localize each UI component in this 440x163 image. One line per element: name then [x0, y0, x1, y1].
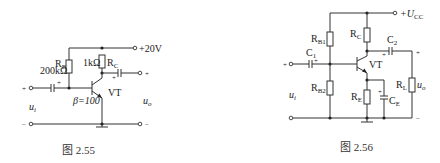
output-plus-terminal	[138, 71, 142, 75]
figure-caption: 图 2.56	[340, 141, 374, 153]
resistor-rc	[364, 28, 370, 42]
rl-label: RL	[396, 79, 407, 92]
c2-label: C2	[387, 34, 398, 47]
input-plus-terminal	[289, 62, 293, 66]
wire	[357, 56, 367, 61]
circuit-diagrams: +20V RB 200kΩ 1kΩ RC + + + +	[0, 0, 440, 163]
rc-label: RC	[107, 57, 119, 70]
output-plus-label: +	[416, 49, 420, 57]
re-label: RE	[351, 91, 362, 104]
transistor-label: VT	[108, 87, 121, 98]
output-minus-label: −	[145, 121, 149, 129]
junction-dot	[67, 86, 70, 89]
input-plus-terminal	[29, 86, 33, 90]
rc-value: 1kΩ	[83, 57, 100, 68]
supply-terminal	[133, 46, 137, 50]
ui-label: ui	[29, 101, 36, 114]
transistor-label: VT	[369, 59, 382, 70]
ce-label: CE	[389, 95, 400, 108]
figure-caption: 图 2.55	[62, 144, 96, 156]
cap-polarity: +	[378, 88, 382, 96]
output-plus-label: +	[145, 70, 149, 78]
rb2-label: RB2	[311, 82, 326, 95]
input-plus-label: +	[22, 85, 26, 93]
uo-label: uo	[417, 79, 426, 92]
beta-label: β=100	[72, 95, 100, 106]
uo-label: uo	[143, 95, 152, 108]
output-minus-terminal	[138, 122, 142, 126]
ui-label: ui	[289, 89, 296, 102]
rc-label: RC	[350, 28, 362, 41]
supply-terminal	[393, 11, 397, 15]
input-minus-terminal	[289, 116, 293, 120]
cap-polarity: +	[382, 51, 386, 59]
resistor-re	[364, 90, 370, 104]
figure-2-55: +20V RB 200kΩ 1kΩ RC + + + +	[22, 43, 163, 156]
output-minus-label: −	[416, 115, 420, 123]
cap-polarity: +	[112, 74, 116, 82]
input-minus-label: −	[22, 121, 26, 129]
junction-dot	[328, 116, 331, 119]
resistor-rl	[409, 78, 415, 92]
junction-dot	[382, 116, 385, 119]
resistor-rb1	[327, 32, 333, 46]
rb-value: 200kΩ	[40, 65, 67, 76]
emitter-arrow-icon	[362, 69, 367, 74]
supply-label: +UCC	[400, 8, 424, 21]
junction-dot	[100, 46, 103, 49]
supply-label: +20V	[139, 43, 163, 54]
resistor-rb2	[327, 81, 333, 95]
wire	[92, 78, 102, 85]
input-plus-label: +	[283, 61, 287, 69]
c1-label: C1	[306, 47, 317, 60]
rb1-label: RB1	[311, 33, 326, 46]
cap-polarity: +	[57, 79, 61, 87]
input-minus-terminal	[29, 122, 33, 126]
figure-2-56: +UCC RB1 RB2 + + C1 RC VT	[283, 8, 426, 153]
